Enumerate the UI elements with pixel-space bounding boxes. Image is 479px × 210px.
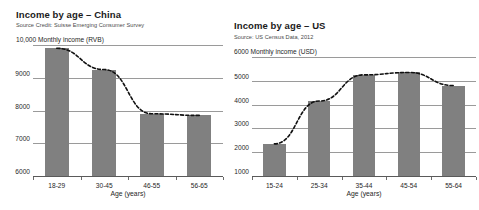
x-tick-mark — [33, 177, 34, 180]
y-tick-label: 1000 — [233, 168, 249, 175]
y-tick-label: 2000 — [233, 144, 249, 151]
x-tick-label: 30-45 — [81, 182, 129, 189]
chart-source-china: Source Credit: Suisse Emerging Consumer … — [16, 22, 144, 28]
x-tick-label: 45-54 — [386, 182, 431, 189]
chart-title-us: Income by age – US — [234, 20, 326, 31]
bar[interactable] — [92, 70, 116, 176]
chart-title-china: Income by age – China — [16, 9, 121, 20]
chart-panel-us: Income by age – US Source: US Census Dat… — [222, 0, 479, 210]
y-tick-label: 8000 — [14, 103, 30, 110]
x-tick-mark — [431, 177, 432, 180]
bar[interactable] — [140, 114, 164, 176]
x-tick-mark — [297, 177, 298, 180]
bar[interactable] — [45, 48, 69, 176]
plot-area-us: 10002000300040005000600015-2425-3435-444… — [252, 57, 476, 176]
bar[interactable] — [263, 144, 285, 176]
y-tick-label: 9000 — [14, 70, 30, 77]
x-tick-mark — [386, 177, 387, 180]
gridline — [33, 45, 223, 46]
x-tick-label: 25-34 — [297, 182, 342, 189]
x-tick-mark — [476, 177, 477, 180]
x-tick-label: 35-44 — [342, 182, 387, 189]
bar[interactable] — [442, 86, 464, 176]
x-tick-label: 55-64 — [431, 182, 476, 189]
x-axis-title-us: Age (years) — [252, 190, 476, 197]
x-axis-title-china: Age (years) — [33, 190, 223, 197]
x-tick-label: 18-29 — [33, 182, 81, 189]
bar[interactable] — [353, 75, 375, 176]
x-tick-mark — [342, 177, 343, 180]
gridline — [252, 57, 476, 58]
y-tick-label: 7000 — [14, 135, 30, 142]
x-tick-mark — [252, 177, 253, 180]
y-axis-caption-us: 6000 Monthly income (USD) — [234, 48, 317, 55]
chart-source-us: Source: US Census Data, 2012 — [234, 34, 313, 40]
x-axis-baseline — [252, 176, 476, 177]
plot-area-china: 600070008000900010,00018-2930-4546-5556-… — [33, 45, 223, 176]
y-tick-label: 6000 — [14, 168, 30, 175]
bar[interactable] — [187, 115, 211, 176]
x-tick-label: 15-24 — [252, 182, 297, 189]
y-tick-label: 4000 — [233, 97, 249, 104]
y-tick-label: 5000 — [233, 73, 249, 80]
y-axis-caption-china: 10,000 Monthly income (RVB) — [16, 36, 104, 43]
bar[interactable] — [308, 101, 330, 176]
x-tick-label: 46-55 — [128, 182, 176, 189]
figure-canvas: Income by age – China Source Credit: Sui… — [0, 0, 479, 210]
x-tick-label: 56-65 — [176, 182, 224, 189]
x-tick-mark — [81, 177, 82, 180]
bar[interactable] — [398, 72, 420, 176]
chart-panel-china: Income by age – China Source Credit: Sui… — [0, 0, 225, 210]
y-tick-label: 3000 — [233, 120, 249, 127]
x-tick-mark — [176, 177, 177, 180]
x-tick-mark — [128, 177, 129, 180]
